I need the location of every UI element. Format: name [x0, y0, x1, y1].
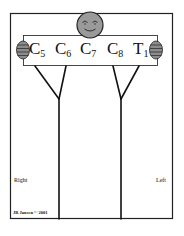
root-letter: C	[107, 39, 118, 58]
root-label-c5: C5	[29, 39, 45, 59]
diagram-canvas	[0, 0, 184, 236]
root-letter: C	[29, 39, 40, 58]
root-number: 1	[143, 48, 148, 59]
root-label-c7: C7	[80, 39, 96, 59]
fist-icon-right-hand	[17, 41, 30, 59]
smiley-face-icon	[77, 12, 103, 38]
left-trunk	[35, 66, 66, 219]
side-label-right: Right	[14, 177, 27, 183]
root-letter: C	[55, 39, 66, 58]
root-number: 6	[66, 48, 71, 59]
root-label-t1: T1	[133, 39, 148, 59]
root-letter: T	[133, 39, 143, 58]
root-number: 7	[91, 48, 96, 59]
fist-icon-left-hand	[150, 41, 163, 59]
root-label-c8: C8	[107, 39, 123, 59]
root-number: 5	[40, 48, 45, 59]
root-label-c6: C6	[55, 39, 71, 59]
root-number: 8	[118, 48, 123, 59]
copyright-credit: JR Jansen © 2001	[13, 210, 48, 215]
root-letter: C	[80, 39, 91, 58]
side-label-left: Left	[156, 177, 166, 183]
right-trunk	[113, 66, 139, 219]
